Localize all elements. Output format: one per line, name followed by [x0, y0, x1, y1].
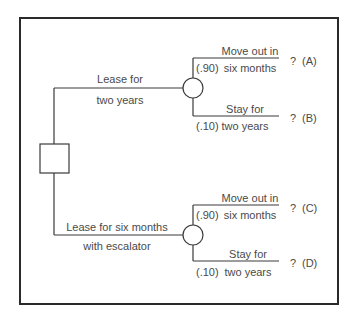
outcome-a-label-line2: six months	[224, 62, 277, 74]
outcome-c-prob: (.90)	[196, 209, 219, 221]
outcome-a-payoff: ?	[290, 55, 296, 67]
decision-node	[40, 144, 69, 173]
outcome-d-payoff: ?	[290, 257, 296, 269]
outcome-c-label-line2: six months	[224, 209, 277, 221]
outcome-d-label-line1: Stay for	[229, 248, 267, 260]
outcome-b-payoff: ?	[290, 112, 296, 124]
outcome-d-label-line2: two years	[224, 266, 271, 278]
outcome-b-prob: (.10)	[196, 120, 219, 132]
chance-node-1	[183, 78, 203, 98]
decision-1-label-line1: Lease for	[97, 73, 143, 85]
decision-tree-lines	[0, 0, 357, 320]
outcome-b-label-line2: two years	[221, 120, 268, 132]
outcome-b-label-line1: Stay for	[226, 103, 264, 115]
outcome-d-id: (D)	[302, 257, 317, 269]
decision-2-label-line1: Lease for six months	[66, 221, 168, 233]
chance-node-2	[183, 225, 203, 245]
outcome-c-label-line1: Move out in	[222, 192, 279, 204]
decision-2-label-line2: with escalator	[83, 240, 150, 252]
outcome-c-id: (C)	[302, 202, 317, 214]
decision-1-label-line2: two years	[96, 94, 143, 106]
outcome-a-label-line1: Move out in	[222, 45, 279, 57]
outcome-a-prob: (.90)	[196, 62, 219, 74]
outcome-a-id: (A)	[302, 55, 317, 67]
outcome-d-prob: (.10)	[196, 266, 219, 278]
outcome-c-payoff: ?	[290, 202, 296, 214]
outcome-b-id: (B)	[302, 112, 317, 124]
